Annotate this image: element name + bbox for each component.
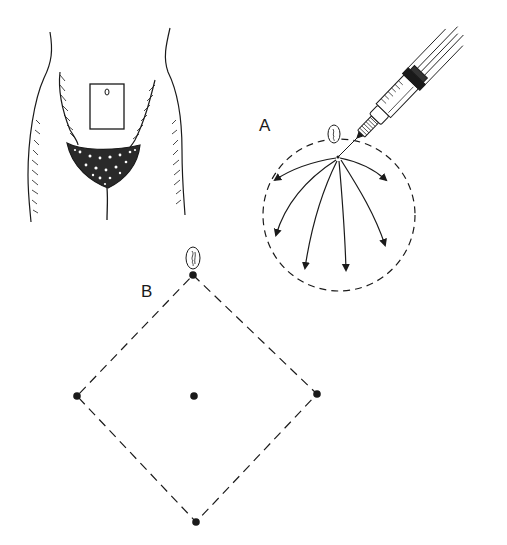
injection-point-bottom xyxy=(192,518,200,526)
umbilicus-icon xyxy=(328,125,340,143)
panel-a-label: A xyxy=(259,117,270,134)
injection-point-center xyxy=(190,392,198,400)
panel-a xyxy=(263,22,470,291)
needle xyxy=(339,138,357,156)
torso-drawing xyxy=(28,28,185,222)
syringe-icon xyxy=(348,22,469,147)
illustration xyxy=(0,0,507,545)
injection-point-left xyxy=(73,392,81,400)
panel-b xyxy=(73,247,321,526)
injection-point-top xyxy=(189,271,197,279)
injection-area-rectangle xyxy=(90,84,124,129)
injection-diamond xyxy=(77,275,317,522)
injection-points xyxy=(73,271,321,526)
injection-direction-arrows xyxy=(275,158,386,270)
injection-point-right xyxy=(313,390,321,398)
panel-b-label: B xyxy=(141,283,152,300)
pubic-region xyxy=(67,143,140,188)
umbilicus-icon xyxy=(186,247,200,269)
figure-canvas: A B xyxy=(0,0,507,545)
